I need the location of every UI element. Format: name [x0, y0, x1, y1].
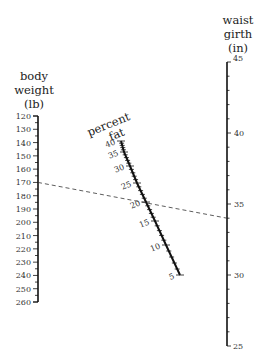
waist-girth-tick-label: 45: [233, 54, 243, 63]
body-weight-tick-label: 120: [16, 112, 31, 121]
body-weight-tick-label: 200: [16, 218, 31, 227]
body-weight-tick-label: 220: [16, 245, 31, 254]
body-weight-title-line: body: [20, 69, 49, 83]
nomogram: body weight (lb) waist girth (in) percen…: [0, 0, 266, 363]
waist-girth-scale: 4540353025: [227, 54, 244, 351]
waist-girth-title: waist girth (in): [223, 13, 254, 55]
percent-fat-tick-label: 35: [107, 149, 120, 161]
body-weight-tick-label: 240: [16, 271, 31, 280]
body-weight-tick-label: 150: [16, 152, 31, 161]
body-weight-tick-label: 140: [16, 139, 31, 148]
body-weight-tick-label: 130: [16, 125, 31, 134]
percent-fat-tick-label: 10: [149, 242, 162, 254]
body-weight-tick-label: 250: [16, 285, 31, 294]
body-weight-tick-label: 190: [16, 205, 31, 214]
body-weight-tick-label: 180: [16, 192, 31, 201]
body-weight-scale: 1201301401501601701801902002102202302402…: [16, 112, 38, 307]
body-weight-title-line: (lb): [24, 97, 44, 111]
percent-fat-tick-label: 5: [168, 272, 176, 282]
waist-girth-title-line: waist: [223, 13, 254, 27]
body-weight-tick-label: 210: [16, 232, 31, 241]
waist-girth-tick-label: 30: [234, 271, 244, 280]
body-weight-title-line: weight: [14, 83, 54, 97]
waist-girth-title-line: girth: [224, 27, 253, 41]
body-weight-tick-label: 260: [16, 298, 31, 307]
waist-girth-tick-label: 40: [234, 129, 244, 138]
waist-girth-title-line: (in): [228, 41, 248, 55]
waist-girth-tick-label: 25: [233, 342, 243, 351]
percent-fat-tick-label: 25: [120, 180, 133, 192]
body-weight-title: body weight (lb): [14, 69, 54, 111]
percent-fat-scale: 403530252015105: [104, 138, 184, 282]
body-weight-tick-label: 170: [16, 178, 31, 187]
waist-girth-tick-label: 35: [234, 200, 244, 209]
body-weight-tick-label: 230: [16, 258, 31, 267]
percent-fat-tick-label: 30: [113, 163, 126, 175]
percent-fat-tick-label: 15: [138, 218, 151, 230]
body-weight-tick-label: 160: [16, 165, 31, 174]
